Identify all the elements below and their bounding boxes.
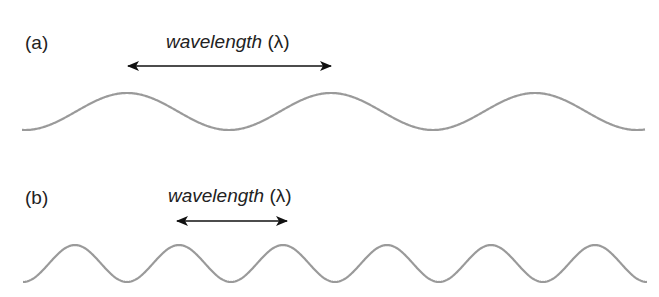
panel-b-wave: [23, 245, 647, 282]
diagram-canvas: [0, 0, 659, 297]
panel-a-wave: [22, 93, 645, 130]
